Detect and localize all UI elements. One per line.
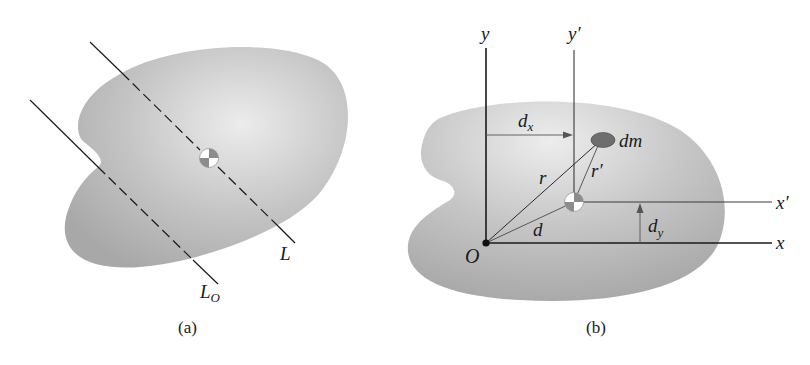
label-L: L	[279, 243, 291, 264]
label-y: y	[479, 23, 490, 44]
label-origin: O	[465, 245, 479, 267]
mass-element-dm	[591, 133, 615, 148]
label-dm: dm	[619, 130, 642, 151]
parallel-axis-diagram: L LO (a)	[0, 0, 810, 365]
label-r-prime: r′	[591, 160, 603, 181]
label-x-prime: x′	[775, 192, 789, 213]
label-d: d	[533, 219, 543, 240]
caption-a: (a)	[178, 318, 197, 337]
origin-point	[482, 239, 489, 246]
figure-a: L LO (a)	[30, 42, 348, 337]
label-r: r	[539, 167, 547, 188]
figure-b: y y′ x x′ O dx dy dm r r′ d (b)	[408, 23, 790, 337]
center-of-mass-icon-b	[565, 193, 584, 212]
label-y-prime: y′	[566, 23, 581, 44]
center-of-mass-icon-a	[200, 149, 219, 168]
label-LO: LO	[199, 281, 221, 305]
label-x: x	[775, 232, 785, 253]
caption-b: (b)	[586, 318, 606, 337]
